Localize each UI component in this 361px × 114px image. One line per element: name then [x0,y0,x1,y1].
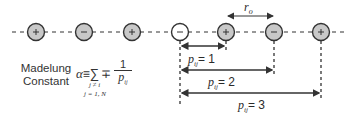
sum-condition-1: j ≠ i [89,81,100,89]
madelung-title-1: Madelung [18,62,74,75]
anion-ion [266,24,283,41]
cation-ion [313,24,330,41]
madelung-title-2: Constant [18,75,74,88]
cation-ion [218,24,235,41]
madelung-formula: α≡∑∓ [76,66,111,82]
distance-label-2: pij= 2 [208,76,235,91]
r0-label: ro [244,1,253,16]
anion-ion [172,24,189,41]
formula-fraction: 1 pij [114,59,132,88]
cation-ion [28,24,45,41]
sum-condition-2: j = 1, N [84,90,106,98]
distance-label-1: pij= 1 [188,53,215,68]
distance-label-3: pij= 3 [238,99,265,114]
anion-ion [76,24,93,41]
cation-ion [124,24,141,41]
lattice-diagram [0,0,361,114]
